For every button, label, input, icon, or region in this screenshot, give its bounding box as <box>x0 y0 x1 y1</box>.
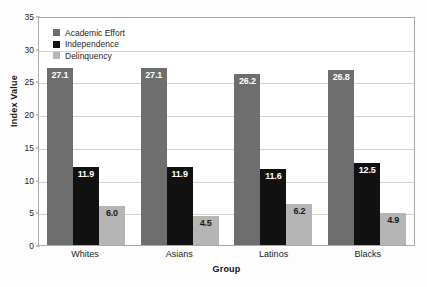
bar[interactable]: 26.8 <box>328 70 354 245</box>
x-axis-title: Group <box>38 264 415 274</box>
y-tick-label: 10 <box>25 176 34 186</box>
bar-value-label: 12.5 <box>354 165 380 175</box>
bar-value-label: 27.1 <box>47 70 73 80</box>
x-tick-label: Latinos <box>227 249 321 259</box>
bar-value-label: 6.0 <box>99 208 125 218</box>
bar-group: 26.211.66.2 <box>227 18 321 245</box>
bar[interactable]: 6.2 <box>286 204 312 245</box>
legend-label: Independence <box>65 39 119 49</box>
bar[interactable]: 27.1 <box>47 68 73 245</box>
bar[interactable]: 26.2 <box>234 74 260 245</box>
y-tick-label: 20 <box>25 110 34 120</box>
legend-swatch-icon <box>53 41 60 48</box>
bar-group-bars: 26.211.66.2 <box>227 18 321 245</box>
legend-item[interactable]: Academic Effort <box>53 27 125 39</box>
y-tick-label: 0 <box>29 241 34 251</box>
bar-value-label: 11.9 <box>73 169 99 179</box>
y-tick-label: 5 <box>29 208 34 218</box>
bar-value-label: 4.5 <box>193 218 219 228</box>
legend-label: Academic Effort <box>65 28 125 38</box>
bar-value-label: 26.8 <box>328 72 354 82</box>
legend-swatch-icon <box>53 52 60 59</box>
bar[interactable]: 4.5 <box>193 216 219 245</box>
bar[interactable]: 11.6 <box>260 169 286 245</box>
bar-group: 27.111.94.5 <box>133 18 227 245</box>
bar[interactable]: 4.9 <box>380 213 406 245</box>
bar[interactable]: 11.9 <box>73 167 99 245</box>
y-tick-label: 15 <box>25 143 34 153</box>
x-tick-label: Blacks <box>321 249 415 259</box>
y-axis-ticks: 05101520253035 <box>12 17 34 246</box>
legend-label: Delinquency <box>65 51 112 61</box>
y-tick-label: 30 <box>25 45 34 55</box>
bar[interactable]: 12.5 <box>354 163 380 245</box>
bar[interactable]: 27.1 <box>141 68 167 245</box>
bar-value-label: 4.9 <box>380 215 406 225</box>
plot-area: Academic EffortIndependenceDelinquency 2… <box>38 17 415 246</box>
bar-value-label: 26.2 <box>234 76 260 86</box>
x-tick-label: Asians <box>132 249 226 259</box>
legend-item[interactable]: Delinquency <box>53 50 125 62</box>
legend: Academic EffortIndependenceDelinquency <box>53 27 125 62</box>
bar[interactable]: 6.0 <box>99 206 125 245</box>
y-tick-label: 35 <box>25 12 34 22</box>
legend-swatch-icon <box>53 29 60 36</box>
bar-value-label: 6.2 <box>286 206 312 216</box>
bar[interactable]: 11.9 <box>167 167 193 245</box>
bar-group-bars: 26.812.54.9 <box>320 18 414 245</box>
bar-group-bars: 27.111.94.5 <box>133 18 227 245</box>
bar-group: 26.812.54.9 <box>320 18 414 245</box>
x-axis-labels: WhitesAsiansLatinosBlacks <box>38 249 415 259</box>
y-tick-label: 25 <box>25 77 34 87</box>
bar-value-label: 11.9 <box>167 169 193 179</box>
bar-chart: Index Value 05101520253035 Academic Effo… <box>0 0 427 287</box>
x-tick-label: Whites <box>38 249 132 259</box>
legend-item[interactable]: Independence <box>53 39 125 51</box>
bar-value-label: 11.6 <box>260 171 286 181</box>
bar-value-label: 27.1 <box>141 70 167 80</box>
